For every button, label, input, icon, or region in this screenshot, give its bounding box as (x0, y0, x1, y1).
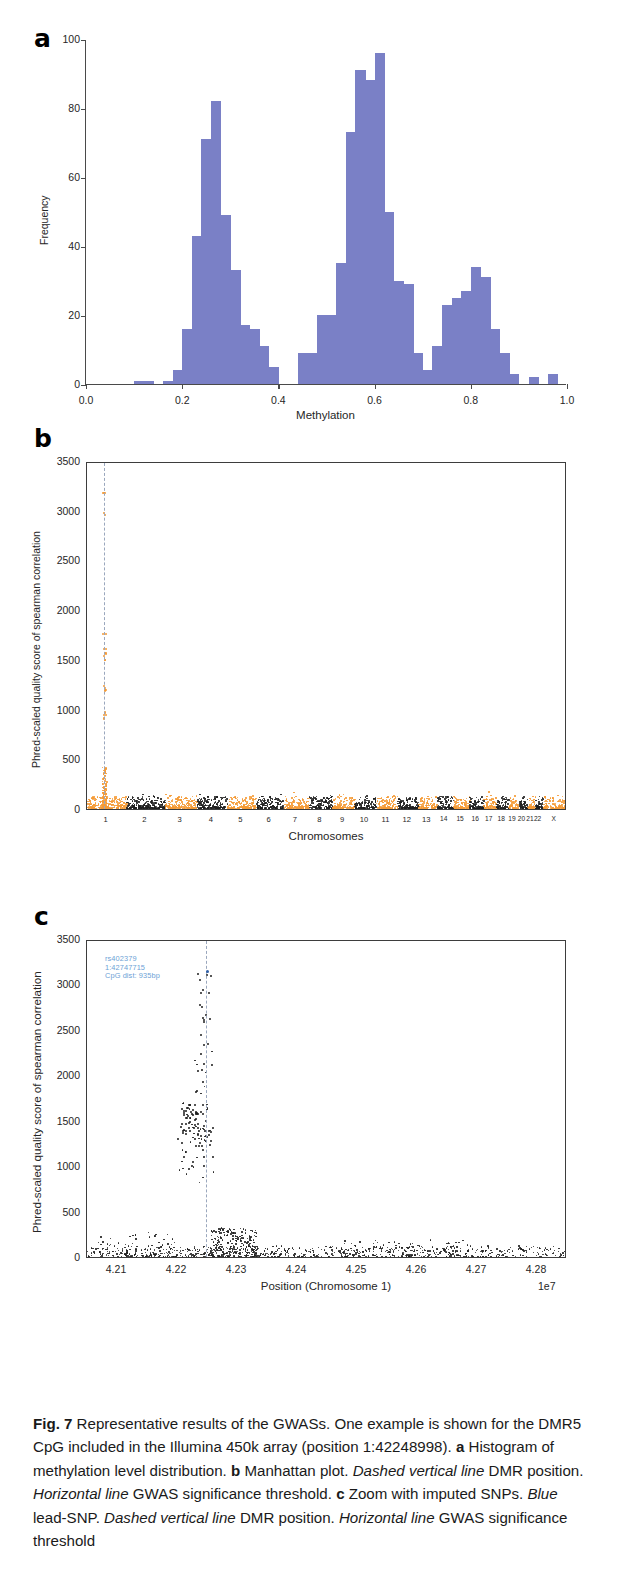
zoom-point (240, 1257, 242, 1258)
zoom-point (240, 1246, 242, 1248)
zoom-point (182, 1256, 183, 1257)
manhattan-point (280, 808, 282, 810)
zoom-point (232, 1257, 233, 1258)
zoom-point (369, 1250, 370, 1251)
zoom-point (305, 1257, 306, 1258)
zoom-point (449, 1243, 450, 1244)
zoom-point (470, 1245, 471, 1246)
manhattan-point (323, 797, 325, 799)
zoom-point (412, 1254, 413, 1255)
manhattan-point (390, 807, 392, 809)
panel-b-y-tick: 1000 (44, 704, 80, 716)
manhattan-point (337, 803, 339, 805)
manhattan-point (138, 805, 140, 807)
manhattan-point (476, 797, 478, 799)
zoom-point (128, 1245, 129, 1246)
zoom-point (220, 1257, 222, 1258)
zoom-point (235, 1257, 237, 1258)
manhattan-point (340, 796, 342, 798)
manhattan-point (191, 800, 193, 802)
zoom-point (256, 1232, 258, 1234)
manhattan-point (252, 795, 254, 797)
manhattan-point (557, 795, 559, 797)
zoom-point (229, 1255, 230, 1256)
panel-c-letter: c (34, 904, 49, 929)
zoom-point (200, 1093, 202, 1095)
zoom-point (211, 1253, 213, 1255)
zoom-point (220, 1232, 222, 1234)
panel-b-y-tick: 2000 (44, 604, 80, 616)
manhattan-point (249, 798, 251, 800)
zoom-point (200, 1135, 202, 1137)
panel-a-letter: a (34, 26, 51, 51)
zoom-point (375, 1240, 376, 1241)
zoom-point (508, 1249, 509, 1250)
manhattan-point (154, 804, 156, 806)
manhattan-point (182, 808, 184, 810)
zoom-point (202, 1113, 204, 1115)
manhattan-point (293, 792, 295, 794)
zoom-point (271, 1256, 272, 1257)
zoom-point (310, 1249, 311, 1250)
zoom-point (294, 1255, 295, 1256)
zoom-point (520, 1248, 521, 1249)
zoom-point (244, 1257, 246, 1258)
panel-a-y-tick: 40 (50, 240, 80, 252)
manhattan-point (253, 801, 255, 803)
zoom-point (471, 1255, 472, 1256)
zoom-point (135, 1234, 136, 1235)
zoom-point (199, 1249, 200, 1250)
zoom-point (145, 1252, 146, 1253)
zoom-point (449, 1257, 450, 1258)
zoom-point (196, 1064, 198, 1066)
zoom-point (358, 1255, 359, 1256)
zoom-point (227, 1257, 229, 1258)
manhattan-point (409, 807, 411, 809)
zoom-point (199, 1182, 201, 1184)
zoom-point (118, 1250, 119, 1251)
zoom-point (190, 1253, 191, 1254)
zoom-point (306, 1257, 307, 1258)
zoom-point (539, 1257, 540, 1258)
manhattan-point (387, 808, 389, 810)
zoom-point (370, 1248, 371, 1249)
zoom-point (160, 1253, 161, 1254)
manhattan-point (313, 802, 315, 804)
manhattan-point (352, 807, 354, 809)
manhattan-point (384, 807, 386, 809)
zoom-point (201, 1138, 203, 1140)
manhattan-point (487, 801, 489, 803)
zoom-point (136, 1246, 137, 1247)
panel-a-y-tickmark (81, 40, 86, 41)
zoom-point (509, 1257, 510, 1258)
chromosome-tick-X: X (540, 815, 568, 822)
zoom-point (177, 1250, 178, 1251)
zoom-point (262, 1254, 263, 1255)
zoom-point (423, 1252, 424, 1253)
manhattan-point (431, 797, 433, 799)
zoom-point (386, 1257, 387, 1258)
zoom-point (513, 1257, 514, 1258)
zoom-point (490, 1257, 491, 1258)
zoom-point (303, 1257, 304, 1258)
manhattan-point (214, 796, 216, 798)
manhattan-point (479, 806, 481, 808)
manhattan-point (465, 803, 467, 805)
panel-a-y-tickmark (81, 316, 86, 317)
manhattan-point (291, 803, 293, 805)
manhattan-point (411, 807, 413, 809)
zoom-point (135, 1238, 136, 1239)
panel-a-x-tickmark (182, 384, 183, 389)
zoom-point (545, 1247, 546, 1248)
zoom-point (129, 1249, 130, 1250)
manhattan-point (328, 808, 330, 810)
zoom-point (460, 1248, 461, 1249)
panel-c-y-tick: 2000 (44, 1069, 80, 1081)
zoom-point (414, 1249, 415, 1250)
zoom-point (305, 1256, 306, 1257)
manhattan-point (490, 795, 492, 797)
zoom-point (474, 1257, 475, 1258)
zoom-point (383, 1244, 384, 1245)
zoom-point (531, 1247, 532, 1248)
zoom-point (555, 1255, 556, 1256)
